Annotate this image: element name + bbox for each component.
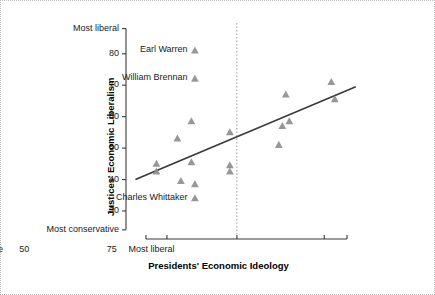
data-point-marker [226,161,234,168]
y-axis-title: Justices' Economic Liberalism [105,78,116,216]
scatter-plot-canvas [1,1,435,295]
data-point-marker [282,91,290,98]
point-annotation: Charles Whittaker [116,192,188,202]
data-point-marker [191,194,199,201]
trend-line [135,87,355,180]
data-point-marker [327,78,335,85]
x-axis-end-label-right: Most liberal [129,244,175,254]
x-tick-label: 50 [19,244,29,254]
point-annotation: William Brennan [122,72,188,82]
data-point-marker [191,46,199,53]
y-tick-label: 80 [109,48,119,58]
chart-figure: 304050607080Most liberalMost conservativ… [0,0,435,295]
axis-lines [122,29,347,239]
data-point-marker [285,117,293,124]
y-axis-end-label: Most liberal [73,23,119,33]
data-point-marker [226,128,234,135]
data-points [153,46,339,201]
data-point-marker [174,135,182,142]
data-point-marker [226,168,234,175]
data-point-marker [278,122,286,129]
data-point-marker [188,158,196,165]
y-axis-end-label: Most conservative [46,224,119,234]
x-axis-end-label-left: Most conservative [0,244,3,254]
x-tick-label: 75 [107,244,117,254]
data-point-marker [153,160,161,167]
data-point-marker [275,141,283,148]
data-point-marker [188,117,196,124]
data-point-marker [191,180,199,187]
data-point-marker [177,177,185,184]
x-axis-title: Presidents' Economic Ideology [1,260,435,271]
point-annotation: Earl Warren [140,44,188,54]
data-point-marker [191,75,199,82]
